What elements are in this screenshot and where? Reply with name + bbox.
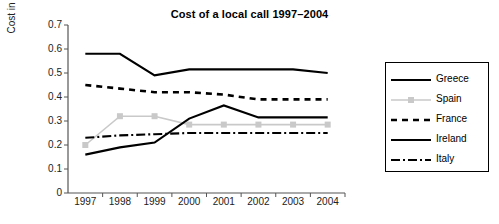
series-line-italy [85, 133, 327, 138]
legend-label: Greece [436, 73, 469, 84]
legend-label: Italy [436, 153, 454, 164]
series-marker-spain [221, 122, 227, 128]
series-marker-spain [186, 122, 192, 128]
legend-swatch-icon [390, 112, 432, 124]
legend-swatch-icon [390, 72, 432, 84]
legend-label: France [436, 113, 467, 124]
chart-legend: GreeceSpainFranceIrelandItaly [385, 62, 489, 172]
legend-label: Spain [436, 93, 462, 104]
series-marker-spain [152, 113, 158, 119]
data-series-group [82, 54, 330, 155]
legend-item-greece[interactable]: Greece [390, 68, 483, 88]
axis-lines [64, 25, 345, 197]
legend-swatch-icon [390, 132, 432, 144]
series-line-france [85, 85, 327, 99]
legend-item-france[interactable]: France [390, 108, 483, 128]
series-line-spain [85, 116, 327, 145]
legend-swatch-icon [390, 152, 432, 164]
legend-item-spain[interactable]: Spain [390, 88, 483, 108]
series-marker-spain [255, 122, 261, 128]
legend-item-ireland[interactable]: Ireland [390, 128, 483, 148]
series-line-greece [85, 54, 327, 76]
legend-item-italy[interactable]: Italy [390, 148, 483, 168]
series-marker-spain [82, 142, 88, 148]
series-marker-spain [117, 113, 123, 119]
chart-container: Cost of a local call 1997–2004 Cost in E… [0, 0, 499, 224]
series-marker-spain [290, 122, 296, 128]
series-line-ireland [85, 105, 327, 154]
legend-label: Ireland [436, 133, 467, 144]
legend-swatch-icon [390, 92, 432, 104]
series-marker-spain [325, 122, 331, 128]
